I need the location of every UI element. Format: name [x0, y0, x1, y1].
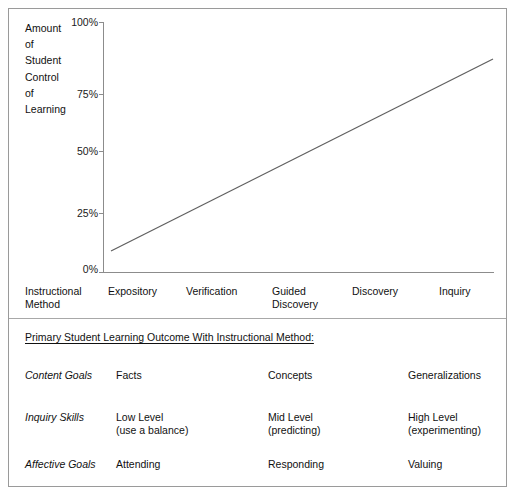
outcome-row-label-content-goals: Content Goals [25, 369, 92, 382]
y-tick-mark-25 [99, 213, 104, 214]
y-tick-mark-100 [99, 22, 104, 23]
section-divider [9, 318, 506, 319]
y-axis-title-line-6: Learning [25, 101, 75, 117]
outcome-cell-affective-goals-3: Valuing [408, 458, 442, 471]
outcome-cell-inquiry-skills-2: Mid Level (predicting) [268, 411, 321, 437]
x-category-guided-discovery: Guided Discovery [272, 285, 318, 310]
x-category-inquiry: Inquiry [439, 285, 471, 298]
y-axis-title-line-2: of [25, 36, 75, 52]
y-tick-label-25: 25% [56, 208, 98, 219]
y-axis-title-line-3: Student [25, 52, 75, 68]
y-tick-label-100: 100% [56, 17, 98, 28]
outcome-cell-affective-goals-1: Attending [116, 458, 160, 471]
y-tick-label-50: 50% [56, 146, 98, 157]
outcome-cell-content-goals-1: Facts [116, 369, 142, 382]
y-tick-label-0: 0% [56, 264, 98, 275]
x-axis-title: Instructional Method [25, 285, 95, 310]
outcome-section-heading: Primary Student Learning Outcome With In… [25, 331, 314, 343]
x-category-verification: Verification [186, 285, 237, 298]
outcome-cell-inquiry-skills-3: High Level (experimenting) [408, 411, 481, 437]
y-tick-mark-50 [99, 151, 104, 152]
y-axis-line [103, 22, 104, 273]
outcome-cell-content-goals-2: Concepts [268, 369, 312, 382]
y-tick-mark-0 [99, 272, 104, 273]
y-axis-title-line-4: Control [25, 69, 75, 85]
y-axis-title: Amount of Student Control of Learning [25, 20, 75, 117]
y-tick-label-75: 75% [56, 89, 98, 100]
outcome-row-label-inquiry-skills: Inquiry Skills [25, 411, 84, 424]
x-category-discovery: Discovery [352, 285, 398, 298]
outcome-cell-inquiry-skills-1: Low Level (use a balance) [116, 411, 188, 437]
x-axis-line [103, 272, 494, 273]
outcome-row-label-affective-goals: Affective Goals [25, 458, 96, 471]
x-axis-title-line-1: Instructional [25, 285, 95, 298]
outcome-cell-affective-goals-2: Responding [268, 458, 324, 471]
x-category-expository: Expository [108, 285, 157, 298]
outcome-cell-content-goals-3: Generalizations [408, 369, 481, 382]
y-tick-mark-75 [99, 94, 104, 95]
figure-canvas: Amount of Student Control of Learning 10… [0, 0, 516, 496]
x-axis-title-line-2: Method [25, 298, 95, 311]
